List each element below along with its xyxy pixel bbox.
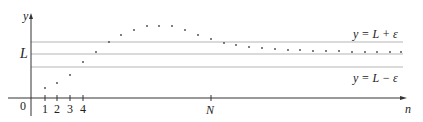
upper-bound-label: y = L + ε — [353, 28, 398, 40]
sequence-point — [389, 51, 391, 53]
sequence-point — [120, 34, 122, 36]
y-axis-label: y — [23, 10, 28, 22]
sequence-points — [44, 25, 402, 89]
tick-label-4: 4 — [80, 103, 86, 115]
sequence-point — [197, 34, 199, 36]
sequence-point — [223, 42, 225, 44]
sequence-point — [171, 25, 173, 27]
sequence-point — [376, 51, 378, 53]
sequence-point — [312, 50, 314, 52]
sequence-point — [351, 51, 353, 53]
sequence-point — [338, 50, 340, 52]
sequence-point — [82, 61, 84, 63]
x-axis-arrow-icon — [400, 96, 407, 100]
sequence-point — [56, 82, 58, 84]
limit-label: L — [20, 47, 28, 61]
origin-label: 0 — [20, 100, 26, 112]
tick-label-N: N — [206, 104, 214, 116]
sequence-point — [184, 29, 186, 31]
y-axis-arrow-icon — [29, 13, 33, 19]
sequence-point — [325, 50, 327, 52]
sequence-point — [235, 44, 237, 46]
sequence-point — [248, 46, 250, 48]
tick-label-1: 1 — [42, 103, 48, 115]
sequence-point — [108, 41, 110, 43]
sequence-point — [133, 29, 135, 31]
sequence-point — [146, 25, 148, 27]
tick-label-3: 3 — [67, 103, 73, 115]
sequence-point — [274, 48, 276, 50]
x-axis-label: n — [405, 103, 411, 115]
lower-bound-label: y = L − ε — [353, 72, 398, 84]
sequence-point — [261, 47, 263, 49]
sequence-point — [95, 51, 97, 53]
sequence-point — [158, 25, 160, 27]
sequence-point — [69, 74, 71, 76]
sequence-point — [210, 38, 212, 40]
tick-label-2: 2 — [54, 103, 60, 115]
sequence-point — [364, 51, 366, 53]
sequence-point — [287, 49, 289, 51]
sequence-point — [299, 49, 301, 51]
sequence-point — [400, 51, 402, 53]
sequence-point — [44, 87, 46, 89]
